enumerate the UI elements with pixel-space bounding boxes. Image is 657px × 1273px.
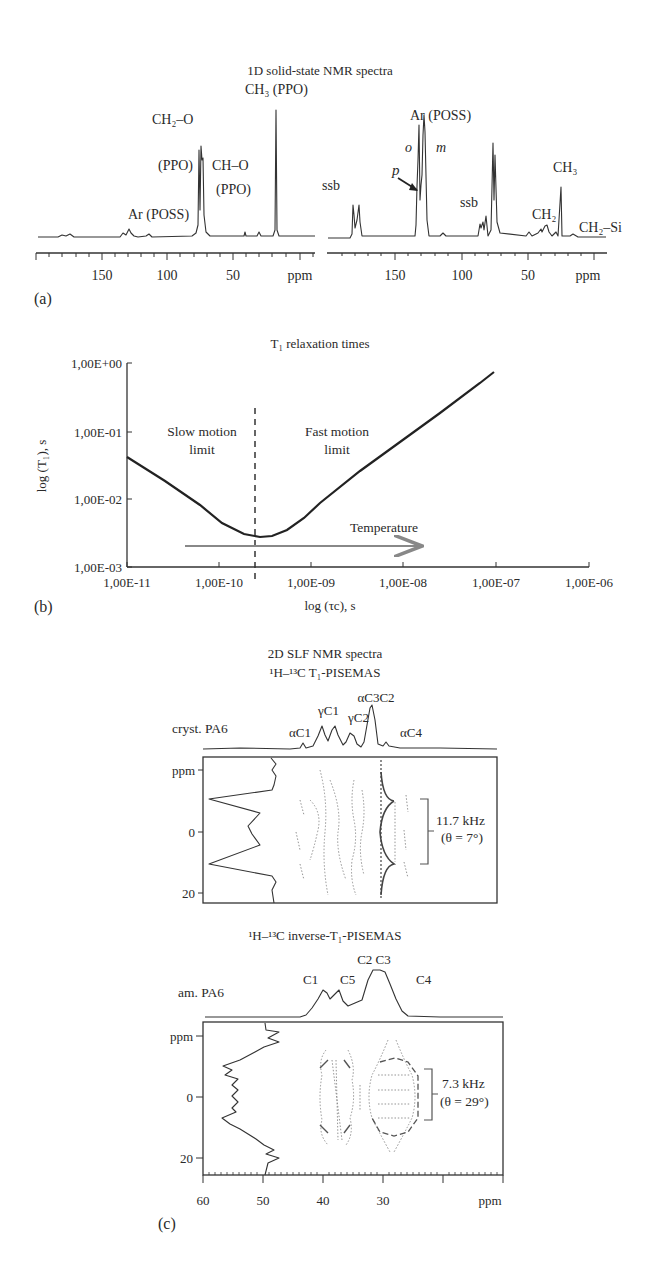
slow-motion-label: Slow motion	[167, 424, 237, 439]
y-axis-label: log (T₁), s	[34, 440, 49, 493]
panel-label-b: (b)	[34, 598, 53, 616]
x-tick-label: 1,00E-11	[103, 575, 151, 590]
ticks-right	[342, 253, 594, 260]
annotation-ortho: o	[405, 140, 412, 155]
peak-c1: C1	[303, 972, 318, 987]
tick-label: 100	[452, 268, 473, 283]
annotation-ch2o-ppo: (PPO)	[158, 158, 193, 174]
peak-c2-c3: C2 C3	[357, 952, 391, 967]
annotation-cho: CH–O	[212, 158, 249, 173]
tick-label: 50	[521, 268, 535, 283]
x-tick-label: 40	[317, 1193, 330, 1208]
angle-label: (θ = 29°)	[440, 1094, 489, 1109]
axis-unit: ppm	[576, 268, 601, 283]
panel-c: 2D SLF NMR spectra ¹H–¹³C T₁-PISEMAS cry…	[158, 646, 503, 1233]
peak-gamma-c1: γC1	[317, 703, 339, 718]
axis-unit: ppm	[288, 268, 313, 283]
tick-label: 100	[157, 268, 178, 283]
annotation-para: p	[391, 162, 400, 178]
figure-canvas: 1D solid-state NMR spectra 150 1	[0, 0, 657, 1273]
spectrum-left: 150 100 50 ppm CH₂–O (PPO) CH–O (PPO) CH…	[36, 82, 315, 283]
panel-b: T₁ relaxation times 1,00E+00 1,00E-01 1,…	[34, 336, 614, 616]
x-axis-unit: ppm	[478, 1193, 501, 1208]
annotation-cho-ppo: (PPO)	[216, 182, 251, 198]
y-tick-label: 0	[189, 825, 196, 840]
splitting-bracket	[420, 799, 434, 864]
y-tick-label: 20	[180, 1151, 193, 1166]
annotation-ch2: CH₂	[532, 207, 556, 222]
annotation-ssb-2: ssb	[460, 195, 478, 210]
tick-label: 150	[385, 268, 406, 283]
peak-c5: C5	[340, 972, 355, 987]
splitting-bracket	[424, 1069, 438, 1120]
fast-motion-label-2: limit	[324, 442, 350, 457]
spectrum-right: 150 100 50 ppm Ar (POSS) o m p ssb ssb C…	[322, 108, 622, 283]
annotation-ch3: CH₃	[553, 160, 577, 175]
bottom-2d-contours	[320, 1040, 418, 1152]
pisemas-title: ¹H–¹³C T₁-PISEMAS	[270, 665, 381, 680]
panel-a-title: 1D solid-state NMR spectra	[247, 63, 393, 78]
panel-label-a: (a)	[34, 290, 52, 308]
splitting-label: 11.7 kHz	[436, 813, 485, 828]
splitting-label: 7.3 kHz	[442, 1076, 485, 1091]
x-tick-label: 1,00E-08	[379, 575, 427, 590]
y-tick-label: 1,00E-01	[74, 425, 122, 440]
peak-alpha-c3c2: αC3C2	[357, 690, 394, 705]
y-tick-label: 1,00E-02	[74, 492, 122, 507]
x-axis-label: log (τc), s	[304, 598, 355, 613]
y-tick-label: 0	[187, 1090, 194, 1105]
x-ticks	[127, 562, 589, 567]
x-tick-label: 30	[377, 1193, 390, 1208]
spectrum-right-trace	[328, 115, 606, 238]
annotation-ssb-1: ssb	[322, 178, 340, 193]
annotation-ar-poss: Ar (POSS)	[410, 108, 471, 124]
angle-label: (θ = 7°)	[441, 830, 483, 845]
sample-label-am: am. PA6	[178, 985, 224, 1000]
y-axis-unit: ppm	[172, 763, 195, 778]
y-tick-label: 1,00E-03	[74, 560, 122, 575]
peak-gamma-c2: γC2	[347, 710, 369, 725]
sample-label-cryst: cryst. PA6	[172, 721, 228, 736]
x-tick-label: 50	[257, 1193, 270, 1208]
y-ticks	[127, 363, 132, 567]
y-tick-label: 20	[182, 886, 195, 901]
panel-label-c: (c)	[158, 1215, 176, 1233]
annotation-meta: m	[436, 140, 446, 155]
slow-motion-label-2: limit	[189, 442, 215, 457]
x-tick-label: 1,00E-07	[472, 575, 521, 590]
panel-c-title: 2D SLF NMR spectra	[268, 646, 383, 661]
annotation-ch3-ppo: CH₃ (PPO)	[245, 82, 308, 98]
annotation-ch2si: CH₂–Si	[579, 220, 622, 235]
top-left-projection	[209, 758, 276, 903]
y-axis-unit: ppm	[170, 1029, 193, 1044]
panel-b-title: T₁ relaxation times	[270, 336, 369, 351]
tick-label: 50	[226, 268, 240, 283]
x-tick-label: 1,00E-06	[565, 575, 614, 590]
t1-curve	[127, 372, 494, 537]
bottom-x-ticks	[203, 1175, 503, 1183]
annotation-ch2o: CH₂–O	[152, 112, 193, 127]
inverse-pisemas-title: ¹H–¹³C inverse-T₁-PISEMAS	[248, 928, 401, 943]
peak-alpha-c4: αC4	[400, 725, 422, 740]
tick-label: 150	[92, 268, 113, 283]
x-tick-label: 60	[197, 1193, 210, 1208]
top-2d-contours	[296, 760, 408, 900]
x-tick-label: 1,00E-09	[287, 575, 335, 590]
y-tick-label: 1,00E+00	[71, 356, 122, 371]
peak-c4: C4	[416, 972, 432, 987]
x-tick-label: 1,00E-10	[195, 575, 243, 590]
ticks-left	[36, 253, 313, 260]
panel-a: 1D solid-state NMR spectra 150 1	[34, 63, 622, 308]
bottom-left-projection	[222, 1023, 279, 1175]
fast-motion-label: Fast motion	[305, 424, 369, 439]
peak-alpha-c1: αC1	[289, 725, 311, 740]
temperature-label: Temperature	[350, 520, 418, 535]
annotation-ar-poss: Ar (POSS)	[128, 207, 189, 223]
